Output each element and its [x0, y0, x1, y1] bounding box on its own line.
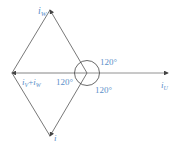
angle-label-upper-right: 120° — [100, 57, 118, 67]
label-bottom-phasor: i — [54, 133, 57, 143]
label-i-v-plus-i-w: iV+iW — [22, 77, 42, 88]
parallelogram-top-left — [12, 10, 50, 73]
label-i-u: iU — [161, 80, 169, 91]
angle-label-lower-right: 120° — [95, 85, 113, 95]
angle-label-left: 120° — [56, 77, 74, 87]
phasor-diagram: iW iV+iW iU i 120° 120° 120° — [0, 0, 176, 150]
label-i-w: iW — [38, 5, 48, 18]
i-w-phasor — [50, 10, 87, 73]
